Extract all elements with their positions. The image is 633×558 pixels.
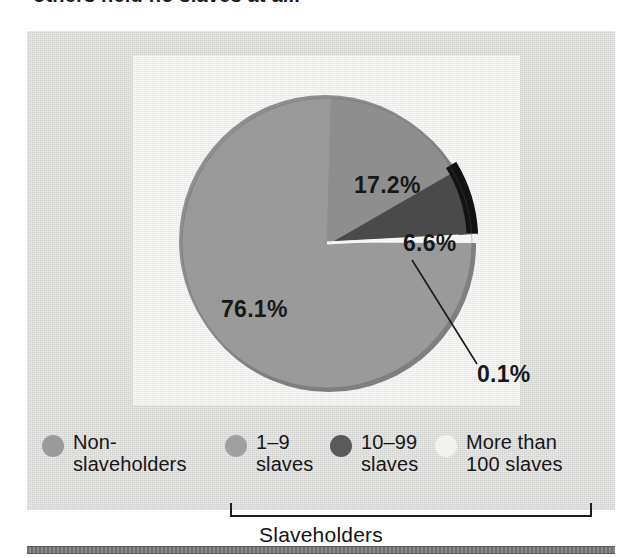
legend-label-slaves-100-plus: More than 100 slaves	[466, 431, 563, 476]
pie-label-slaves-100-plus: 0.1%	[477, 361, 531, 388]
pie-gap-line-outer	[459, 235, 477, 236]
bottom-rule-divider	[27, 546, 615, 554]
bracket-right-tick	[590, 503, 592, 517]
legend-label-slaves-1-9: 1–9 slaves	[256, 431, 313, 476]
legend-item-non-slaveholders[interactable]: Non- slaveholders	[42, 431, 187, 476]
legend-swatch-slaves-10-99-icon	[330, 435, 352, 457]
bracket-horizontal-rule	[230, 515, 592, 517]
caption-strip: others held no slaves at all.	[0, 0, 633, 14]
slaveholders-bracket	[230, 503, 592, 518]
figure-page: others held no slaves at all.	[0, 0, 633, 558]
legend-item-slaves-100-plus[interactable]: More than 100 slaves	[435, 431, 563, 476]
legend-item-slaves-10-99[interactable]: 10–99 slaves	[330, 431, 418, 476]
legend-swatch-non-slaveholders-icon	[42, 435, 64, 457]
slaveholders-bracket-label: Slaveholders	[27, 523, 615, 547]
figure-panel: 17.2% 6.6% 76.1% 0.1% Non- slaveholders …	[27, 31, 615, 510]
pie-label-non-slaveholders: 76.1%	[221, 296, 288, 323]
pie-label-slaves-1-9: 17.2%	[354, 172, 421, 199]
caption-text: others held no slaves at all.	[33, 0, 300, 7]
legend-label-non-slaveholders: Non- slaveholders	[73, 431, 187, 476]
pie-label-slaves-10-99: 6.6%	[403, 230, 457, 257]
legend: Non- slaveholders 1–9 slaves 10–99 slave…	[27, 431, 615, 491]
legend-item-slaves-1-9[interactable]: 1–9 slaves	[225, 431, 313, 476]
legend-swatch-slaves-100-plus-icon	[435, 435, 457, 457]
legend-swatch-slaves-1-9-icon	[225, 435, 247, 457]
legend-label-slaves-10-99: 10–99 slaves	[361, 431, 418, 476]
